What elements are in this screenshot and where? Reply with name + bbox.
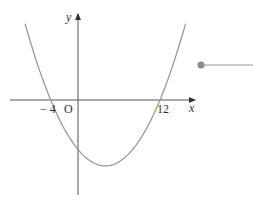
parabola-diagram: y x O − 4 12 xyxy=(0,0,253,204)
x-axis-label: x xyxy=(188,101,195,115)
y-axis-label: y xyxy=(65,10,72,24)
tick-label-12: 12 xyxy=(157,102,169,116)
tick-label-neg4: − 4 xyxy=(40,102,56,116)
parabola-curve xyxy=(25,24,186,166)
origin-label: O xyxy=(64,102,73,116)
